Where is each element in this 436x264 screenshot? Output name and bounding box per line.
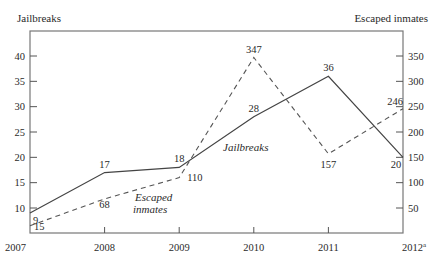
right-axis-tick-label: 50 <box>408 203 419 214</box>
right-axis-tick-label: 350 <box>408 51 424 62</box>
right-axis-tick-label: 200 <box>408 127 424 138</box>
jailbreaks-line <box>30 76 403 213</box>
escaped-series-label-line1: Escaped <box>134 191 173 203</box>
jailbreaks-data-label: 28 <box>249 103 260 114</box>
x-axis-label: 2010 <box>243 242 264 253</box>
escaped-series-label-line2: inmates <box>133 203 167 215</box>
x-axis-label: 2012a <box>402 241 427 253</box>
escaped-data-label: 347 <box>246 44 262 55</box>
escaped-data-label: 110 <box>187 172 202 183</box>
dual-axis-line-chart: 1015202530354050100150200250300350200720… <box>0 0 436 264</box>
escaped-data-label: 68 <box>99 199 110 210</box>
jailbreaks-data-label: 18 <box>174 153 185 164</box>
escaped-data-label: 246 <box>387 96 403 107</box>
left-axis-tick-label: 25 <box>15 127 26 138</box>
x-axis-label: 2009 <box>169 242 190 253</box>
x-axis-label: 2008 <box>94 242 115 253</box>
x-axis-label: 2011 <box>318 242 339 253</box>
escaped-data-label: 15 <box>34 221 45 232</box>
left-axis-tick-label: 20 <box>15 152 26 163</box>
right-axis-tick-label: 100 <box>408 177 424 188</box>
jailbreaks-series-label: Jailbreaks <box>223 141 268 153</box>
right-axis-tick-label: 300 <box>408 76 424 87</box>
jailbreaks-data-label: 20 <box>391 159 402 170</box>
jailbreaks-data-label: 17 <box>99 159 110 170</box>
left-axis-tick-label: 35 <box>15 76 26 87</box>
left-axis-tick-label: 15 <box>15 177 26 188</box>
left-axis-tick-label: 30 <box>15 101 26 112</box>
right-axis-tick-label: 250 <box>408 101 424 112</box>
left-axis-tick-label: 40 <box>15 51 26 62</box>
x-axis-label: 2007 <box>5 242 26 253</box>
escaped-data-label: 157 <box>321 159 337 170</box>
plot-frame <box>30 31 403 233</box>
jailbreaks-data-label: 36 <box>323 62 334 73</box>
left-axis-tick-label: 10 <box>15 203 26 214</box>
right-axis-tick-label: 150 <box>408 152 424 163</box>
